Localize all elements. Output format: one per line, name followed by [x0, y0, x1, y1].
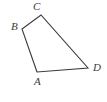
vertex-label-b: B: [11, 21, 18, 32]
vertex-label-d: D: [93, 62, 101, 73]
geometry-figure: C B A D: [0, 0, 107, 102]
figure-background: [0, 0, 107, 102]
vertex-label-a: A: [34, 76, 41, 87]
quadrilateral-svg: [0, 0, 107, 102]
vertex-label-c: C: [33, 1, 40, 12]
